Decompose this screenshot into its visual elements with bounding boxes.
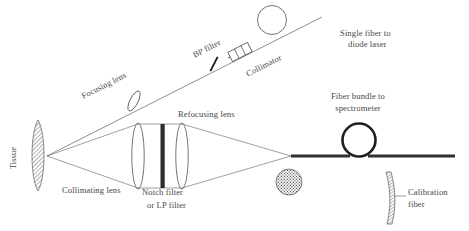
collimating-lens-icon — [132, 123, 144, 189]
label-notch-filter-line1: Notch filter — [142, 187, 183, 197]
label-calibration-line2: fiber — [408, 199, 425, 209]
label-bp-filter: BP filter — [191, 37, 222, 60]
label-focusing-lens: Focusing lens — [80, 70, 129, 101]
label-refocusing-lens: Refocusing lens — [178, 109, 235, 119]
label-collimating-lens: Collimating lens — [62, 185, 121, 195]
fiber-bundle-cross-section-icon — [276, 169, 302, 195]
label-tissue: Tissue — [9, 147, 18, 169]
refocusing-lens-icon — [176, 123, 188, 189]
diagram-canvas: Tissue Focusing lens BP filter Collimato… — [0, 0, 469, 231]
label-single-fiber-line2: diode laser — [348, 39, 387, 49]
collimator-icon — [226, 42, 253, 62]
excitation-fiber-loop-icon — [258, 6, 287, 35]
calibration-fiber-icon — [386, 172, 406, 224]
label-single-fiber-line1: Single fiber to — [340, 28, 391, 38]
label-fiber-bundle-line2: spectrometer — [335, 103, 381, 113]
label-collimator: Collimator — [244, 52, 283, 78]
label-notch-filter-line2: or LP filter — [147, 200, 186, 210]
tissue-sample-icon — [32, 120, 44, 191]
collection-ray-bundle — [47, 124, 291, 188]
bp-filter-icon — [210, 57, 217, 71]
label-fiber-bundle-line1: Fiber bundle to — [331, 91, 385, 101]
optical-layout-diagram: Tissue Focusing lens BP filter Collimato… — [0, 0, 469, 231]
fiber-bundle-to-spectrometer-icon — [291, 124, 455, 157]
label-calibration-line1: Calibration — [408, 187, 448, 197]
notch-filter-icon — [161, 124, 165, 188]
